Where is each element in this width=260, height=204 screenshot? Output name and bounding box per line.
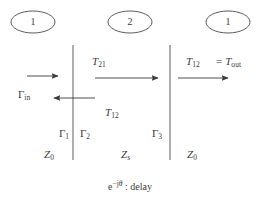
label-zs-middle: Zs [121,145,130,162]
t-out-sub: out [231,60,241,69]
gamma-1-sub: 1 [65,132,69,141]
port-label-2: 2 [128,17,133,27]
label-z0-right: Z0 [187,145,197,162]
boundary-line-group [73,45,170,160]
port-label-3: 1 [226,17,231,27]
caption-text: delay [130,181,152,192]
label-z0-left: Z0 [44,145,54,162]
caption-delay: e−jθ : delay [108,180,152,191]
label-t12-left: T12 [105,103,119,120]
gamma-2-sub: 2 [86,132,90,141]
label-t12-right: T12 [186,52,200,69]
label-gamma-in: Γin [18,85,30,102]
label-t21: T21 [92,52,106,69]
gamma-in-sub: in [24,93,30,102]
figure-canvas: 1 2 1 Γin T21 T12 T12 =Tout Γ1 Γ2 Γ3 Z0 … [0,0,260,204]
t12-left-sub: 12 [111,111,119,120]
zs-middle-sub: s [127,153,130,162]
label-gamma-3: Γ3 [152,124,162,141]
label-gamma-2: Γ2 [80,124,90,141]
wave-arrow-group [27,76,228,98]
label-t-out-equation: =Tout [216,52,241,69]
label-gamma-1: Γ1 [59,124,69,141]
z0-right-sub: 0 [193,153,197,162]
z0-left-sub: 0 [50,153,54,162]
diagram-vector-layer [0,0,260,204]
t12-right-sub: 12 [192,60,200,69]
t21-sub: 21 [98,60,106,69]
gamma-3-sub: 3 [158,132,162,141]
port-label-1: 1 [31,17,36,27]
equals-sign: = [216,55,222,67]
